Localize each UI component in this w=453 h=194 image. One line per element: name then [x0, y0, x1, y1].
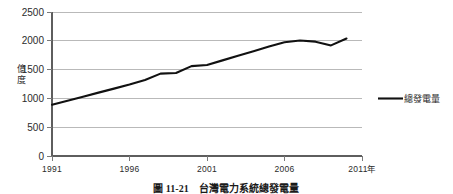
- x-tick-label-2011: 2011: [348, 164, 367, 174]
- y-axis-title-char-1: 億: [17, 63, 26, 74]
- y-tick-label-1000: 1000: [22, 93, 45, 104]
- x-tick-label-1996: 1996: [119, 164, 139, 174]
- y-tick-label-2500: 2500: [22, 7, 45, 18]
- x-tick-label-2001: 2001: [197, 164, 217, 174]
- y-tick-label-500: 500: [27, 122, 44, 133]
- x-tick-label-2006: 2006: [274, 164, 294, 174]
- x-axis-unit-label: 年: [367, 164, 376, 174]
- x-tick-label-1991: 1991: [42, 164, 62, 174]
- figure-caption: 圖 11-21 台灣電力系統總發電量: [153, 182, 298, 194]
- y-tick-label-0: 0: [38, 151, 44, 162]
- line-chart-canvas: 2500 2000 1500 1000 500 0 億 度 1991 1996 …: [0, 0, 453, 194]
- chart-figure: 2500 2000 1500 1000 500 0 億 度 1991 1996 …: [0, 0, 453, 194]
- y-axis-title-char-2: 度: [17, 74, 26, 85]
- chart-background: [0, 0, 453, 194]
- legend-label-total-generation: 總發電量: [404, 93, 440, 104]
- y-tick-label-2000: 2000: [22, 35, 45, 46]
- caption-text: 圖 11-21 台灣電力系統總發電量: [153, 182, 298, 194]
